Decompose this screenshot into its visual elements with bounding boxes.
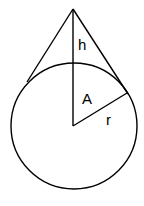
tangent-circle-diagram: h A r bbox=[0, 0, 144, 206]
label-A: A bbox=[82, 90, 92, 107]
label-h: h bbox=[78, 36, 86, 53]
label-r: r bbox=[106, 111, 111, 128]
left-tangent-line bbox=[27, 9, 73, 82]
